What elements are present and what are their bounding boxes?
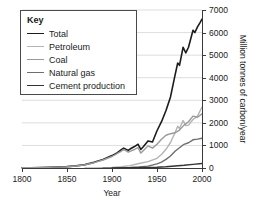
y-axis-line [202, 10, 203, 168]
y-tick [202, 145, 206, 146]
y-tick-label: 5000 [209, 51, 228, 60]
legend-entry: Coal [27, 53, 136, 66]
x-tick [202, 168, 203, 172]
legend-swatch-icon [27, 59, 44, 60]
y-tick-label: 7000 [209, 6, 228, 15]
y-axis-title-text: Million tonnes of carbon/year [238, 35, 247, 144]
y-axis-title: Million tonnes of carbon/year [236, 10, 248, 168]
legend-entry: Natural gas [27, 66, 136, 79]
x-tick-label: 1850 [58, 175, 77, 184]
y-tick-label: 4000 [209, 73, 228, 82]
y-tick-label: 3000 [209, 96, 228, 105]
legend-entries: TotalPetroleumCoalNatural gasCement prod… [27, 27, 136, 92]
x-tick [67, 168, 68, 172]
x-tick [112, 168, 113, 172]
y-tick-label: 6000 [209, 28, 228, 37]
legend-label: Natural gas [49, 68, 95, 78]
y-tick-label: 1000 [209, 141, 228, 150]
x-tick-label: 1950 [148, 175, 167, 184]
x-tick [22, 168, 23, 172]
legend-title: Key [27, 15, 136, 25]
legend: Key TotalPetroleumCoalNatural gasCement … [20, 10, 137, 95]
y-tick [202, 10, 206, 11]
series-line-coal [22, 114, 202, 168]
legend-swatch-icon [27, 33, 44, 34]
legend-swatch-icon [27, 85, 44, 86]
legend-label: Coal [49, 55, 68, 65]
legend-label: Petroleum [49, 42, 90, 52]
legend-swatch-icon [27, 46, 44, 47]
x-tick-label: 1900 [103, 175, 122, 184]
legend-entry: Petroleum [27, 40, 136, 53]
y-tick [202, 123, 206, 124]
legend-entry: Cement production [27, 79, 136, 92]
y-tick [202, 33, 206, 34]
x-axis-title: Year [0, 189, 224, 198]
y-tick-label: 0 [209, 164, 214, 173]
emissions-line-chart: 01000200030004000500060007000 Million to… [0, 0, 268, 212]
legend-label: Cement production [49, 81, 125, 91]
y-tick-label: 2000 [209, 119, 228, 128]
x-tick-label: 2000 [193, 175, 212, 184]
x-tick [157, 168, 158, 172]
y-tick [202, 55, 206, 56]
legend-entry: Total [27, 27, 136, 40]
x-tick-label: 1800 [13, 175, 32, 184]
legend-swatch-icon [27, 72, 44, 73]
y-tick [202, 100, 206, 101]
legend-label: Total [49, 29, 68, 39]
y-tick [202, 78, 206, 79]
